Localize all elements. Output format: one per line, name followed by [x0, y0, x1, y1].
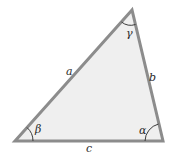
- angle-label-gamma: γ: [126, 27, 133, 40]
- triangle-diagram: a b c γ β α: [0, 0, 175, 156]
- angle-label-alpha: α: [139, 124, 147, 137]
- angle-label-beta: β: [34, 123, 41, 136]
- triangle: [15, 10, 163, 141]
- side-label-c: c: [86, 142, 92, 155]
- side-label-b: b: [149, 71, 156, 84]
- side-label-a: a: [66, 65, 73, 78]
